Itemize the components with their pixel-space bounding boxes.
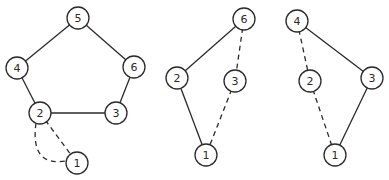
node-3: 3 <box>361 67 383 89</box>
node-label: 6 <box>241 13 248 26</box>
graph-left-edges <box>17 18 134 163</box>
node-label: 4 <box>14 62 21 75</box>
node-3: 3 <box>105 102 127 124</box>
node-label: 2 <box>307 75 314 88</box>
node-2: 2 <box>29 102 51 124</box>
edge-6-2 <box>177 19 244 78</box>
node-2: 2 <box>299 70 321 92</box>
node-label: 1 <box>203 149 210 162</box>
edge-2-1 <box>177 78 206 155</box>
node-1: 1 <box>195 144 217 166</box>
node-label: 6 <box>131 61 138 74</box>
nodes-layer: 54623162314231 <box>6 7 383 174</box>
edge-3-1 <box>206 81 235 155</box>
node-2: 2 <box>166 67 188 89</box>
node-1: 1 <box>66 152 88 174</box>
node-label: 3 <box>113 107 120 120</box>
node-4: 4 <box>6 57 28 79</box>
edge-3-1 <box>335 78 372 155</box>
node-label: 2 <box>174 72 181 85</box>
graph-diagram: 54623162314231 <box>0 0 389 180</box>
node-label: 1 <box>74 157 81 170</box>
node-6: 6 <box>123 56 145 78</box>
node-1: 1 <box>324 144 346 166</box>
node-5: 5 <box>67 7 89 29</box>
node-label: 2 <box>37 107 44 120</box>
node-6: 6 <box>233 8 255 30</box>
node-label: 1 <box>332 149 339 162</box>
node-label: 3 <box>369 72 376 85</box>
edge-4-3 <box>297 21 372 78</box>
node-label: 5 <box>75 12 82 25</box>
edge-5-4 <box>17 18 78 68</box>
graph-right-nodes: 4231 <box>286 10 383 166</box>
node-label: 3 <box>232 75 239 88</box>
node-4: 4 <box>286 10 308 32</box>
node-3: 3 <box>224 70 246 92</box>
node-label: 4 <box>294 15 301 28</box>
edge-2-1 <box>310 81 335 155</box>
edges-layer <box>17 18 372 163</box>
